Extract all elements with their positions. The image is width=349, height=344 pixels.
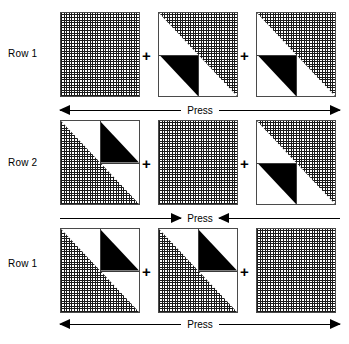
arrow-shaft-left [60, 324, 181, 325]
press-label: Press [181, 105, 219, 116]
black-wedge [257, 163, 296, 205]
wedge-rule-vertical [198, 229, 199, 271]
row-label: Row 1 [8, 258, 62, 269]
wedge-rule-horizontal [257, 55, 296, 56]
wedge-rule-horizontal [198, 271, 237, 272]
press-label: Press [181, 213, 219, 224]
pattern-square-br-white [60, 228, 140, 313]
plus-sign: + [240, 264, 249, 279]
wedge-rule-horizontal [100, 163, 139, 164]
row-label: Row 2 [8, 157, 62, 168]
wedge-rule-horizontal [257, 163, 296, 164]
arrow-head-left [59, 319, 70, 329]
pattern-square-grid [60, 12, 140, 97]
press-arrow-bar: Press [60, 100, 340, 120]
pattern-square-tl-white [256, 12, 336, 97]
arrow-shaft-right [219, 324, 340, 325]
arrow-head-right [171, 213, 182, 223]
press-arrow-bar: Press [60, 314, 340, 334]
black-wedge [198, 229, 237, 271]
hatch-fill [159, 121, 237, 204]
wedge-rule-horizontal [159, 55, 198, 56]
plus-sign: + [142, 264, 151, 279]
arrow-shaft-left [60, 218, 181, 219]
hatch-fill [61, 13, 139, 96]
pattern-square-tl-white [256, 120, 336, 205]
wedge-rule-vertical [100, 121, 101, 163]
black-wedge [159, 55, 198, 97]
row-label: Row 1 [8, 48, 62, 59]
figure-canvas: Row 1++Row 2++Row 1++PressPressPress [0, 0, 349, 344]
plus-sign: + [240, 48, 249, 63]
arrow-head-right [330, 105, 341, 115]
wedge-rule-vertical [100, 229, 101, 271]
arrow-head-left [218, 213, 229, 223]
arrow-head-left [59, 105, 70, 115]
press-arrow-bar: Press [60, 208, 340, 228]
wedge-rule-horizontal [100, 271, 139, 272]
black-wedge [257, 55, 296, 97]
arrow-head-right [330, 319, 341, 329]
wedge-rule-vertical [296, 55, 297, 97]
arrow-shaft-right [219, 110, 340, 111]
press-label: Press [181, 319, 219, 330]
pattern-square-grid [158, 120, 238, 205]
hatch-fill [257, 229, 335, 312]
wedge-rule-vertical [198, 55, 199, 97]
pattern-square-grid [256, 228, 336, 313]
pattern-square-br-white [158, 228, 238, 313]
plus-sign: + [142, 156, 151, 171]
arrow-shaft-left [60, 110, 181, 111]
pattern-square-br-white [60, 120, 140, 205]
black-wedge [100, 121, 139, 163]
pattern-square-tl-white [158, 12, 238, 97]
arrow-shaft-right [219, 218, 340, 219]
plus-sign: + [142, 48, 151, 63]
wedge-rule-vertical [296, 163, 297, 205]
plus-sign: + [240, 156, 249, 171]
black-wedge [100, 229, 139, 271]
